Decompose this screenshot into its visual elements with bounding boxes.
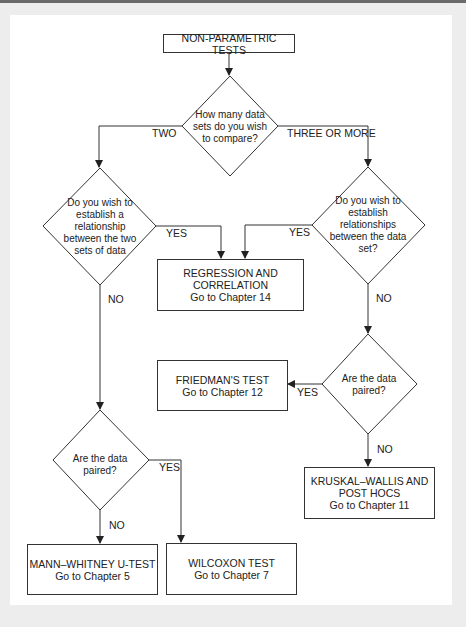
edge-label-three-or-more: THREE OR MORE <box>287 127 376 139</box>
decision-line: paired? <box>352 385 385 397</box>
outcome-line: POST HOCS <box>339 487 401 499</box>
outcome-line: FRIEDMAN'S TEST <box>176 374 269 386</box>
decision-line: establish <box>348 207 387 219</box>
decision-line: relationship <box>74 221 125 233</box>
decision-line: establish a <box>76 209 124 221</box>
decision-line: Do you wish to <box>67 197 133 209</box>
outcome-line: Go to Chapter 7 <box>194 569 269 581</box>
decision-line: relationships <box>340 219 396 231</box>
outcome-regression-correlation: REGRESSION AND CORRELATION Go to Chapter… <box>157 259 304 311</box>
title-box: NON-PARAMETRIC TESTS <box>163 34 295 53</box>
outcome-line: KRUSKAL–WALLIS AND <box>311 475 429 487</box>
decision-line: Are the data <box>73 453 127 465</box>
title-text: NON-PARAMETRIC TESTS <box>164 32 294 56</box>
outcome-line: Go to Chapter 12 <box>182 386 263 398</box>
decision-line: to compare? <box>202 133 258 145</box>
decision-compare: How many data sets do you wish to compar… <box>190 108 270 146</box>
outcome-line: MANN–WHITNEY U-TEST <box>30 558 156 570</box>
edge-label-no: NO <box>109 519 125 531</box>
edge-label-yes: YES <box>166 227 187 239</box>
decision-line: between the two <box>64 233 137 245</box>
edge-label-no: NO <box>108 293 124 305</box>
decision-line: How many data <box>195 109 264 121</box>
decision-paired-right: Are the data paired? <box>333 372 405 398</box>
outcome-wilcoxon: WILCOXON TEST Go to Chapter 7 <box>166 543 297 595</box>
outcome-kruskal-wallis: KRUSKAL–WALLIS AND POST HOCS Go to Chapt… <box>304 467 435 519</box>
outcome-line: WILCOXON TEST <box>188 557 275 569</box>
decision-line: sets do you wish <box>193 121 267 133</box>
edge-label-no: NO <box>376 292 392 304</box>
edge-label-yes: YES <box>289 226 310 238</box>
decision-line: set? <box>359 243 378 255</box>
decision-relationship-two: Do you wish to establish a relationship … <box>55 196 145 258</box>
edge-label-no: NO <box>377 443 393 455</box>
outcome-friedman: FRIEDMAN'S TEST Go to Chapter 12 <box>157 360 288 411</box>
edge-label-yes: YES <box>297 386 318 398</box>
outcome-mann-whitney: MANN–WHITNEY U-TEST Go to Chapter 5 <box>27 544 158 595</box>
edge-label-two: TWO <box>152 127 177 139</box>
decision-line: sets of data <box>74 245 126 257</box>
outcome-line: CORRELATION <box>193 279 268 291</box>
outcome-line: Go to Chapter 5 <box>55 570 130 582</box>
decision-relationship-three: Do you wish to establish relationships b… <box>323 194 413 256</box>
decision-paired-left: Are the data paired? <box>64 452 136 478</box>
outcome-line: REGRESSION AND <box>183 267 278 279</box>
edge-label-yes: YES <box>159 461 180 473</box>
decision-line: between the data <box>330 231 407 243</box>
decision-line: paired? <box>83 465 116 477</box>
decision-line: Do you wish to <box>335 195 401 207</box>
outcome-line: Go to Chapter 14 <box>190 291 271 303</box>
decision-line: Are the data <box>342 373 396 385</box>
outcome-line: Go to Chapter 11 <box>330 499 410 511</box>
flowchart-connectors <box>0 0 466 627</box>
